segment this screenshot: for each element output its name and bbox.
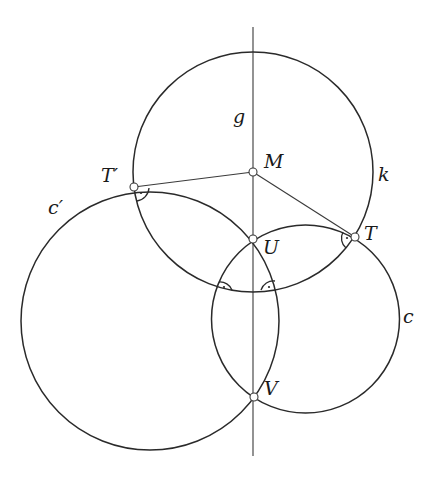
point-T-prime xyxy=(130,183,138,191)
label-T: T xyxy=(364,222,378,244)
circle-c xyxy=(212,225,400,413)
label-T-prime: T′ xyxy=(101,164,119,186)
point-V xyxy=(250,393,258,401)
label-k: k xyxy=(378,163,390,185)
label-c: c xyxy=(403,305,414,327)
segment-MT-prime xyxy=(134,172,253,187)
label-M: M xyxy=(263,150,284,172)
point-U xyxy=(249,235,257,243)
geometry-diagram: g M k T′ T c′ U c V xyxy=(0,0,434,480)
label-c-prime: c′ xyxy=(48,196,64,218)
circle-c-prime xyxy=(21,192,279,450)
segment-MT xyxy=(253,172,355,237)
label-U: U xyxy=(263,236,280,258)
point-T xyxy=(351,233,359,241)
label-g: g xyxy=(233,105,245,127)
right-angle-mark-t-prime xyxy=(137,188,149,201)
label-V: V xyxy=(264,377,280,399)
point-M xyxy=(249,168,257,176)
